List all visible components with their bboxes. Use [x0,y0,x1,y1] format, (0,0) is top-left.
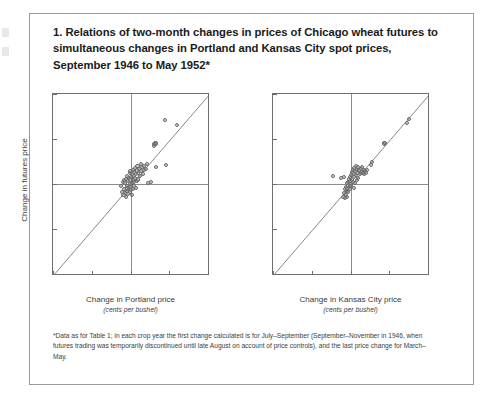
scatter-point [136,177,140,181]
y-axis-tick-mark [273,274,277,275]
x-axis-tick-mark [312,271,313,275]
scatter-point [144,167,148,171]
x-axis-tick-mark [428,271,429,275]
margin-artifact-top [2,28,9,37]
figure-footnote: *Data as for Table 1; in each crop year … [53,331,438,362]
scatter-point [352,186,356,190]
x-axis-tick-mark [389,271,390,275]
y-axis-tick-mark [53,139,57,140]
scatter-point [365,168,369,172]
scatter-point [175,123,179,127]
x-axis-tick-mark [351,271,352,275]
x-axis-tick-mark [273,271,274,275]
x-axis-units-kansascity: (cents per bushel) [272,306,429,313]
x-axis-tick-mark [131,271,132,275]
y-axis-tick-mark [53,94,57,95]
y-axis-tick-mark [53,184,57,185]
scatter-point [405,121,409,125]
y-axis-tick-mark [273,94,277,95]
margin-artifact-bottom [2,47,9,56]
y-axis-tick-mark [273,184,277,185]
y-axis-tick-mark [273,139,277,140]
scatter-point [149,180,153,184]
scatter-point [154,165,158,169]
x-axis-title-portland: Change in Portland price [52,295,209,304]
scatter-point [134,186,138,190]
x-axis-tick-mark [169,271,170,275]
figure-title: 1. Relations of two-month changes in pri… [53,24,443,73]
y-axis-tick-mark [273,229,277,230]
x-axis-tick-mark [208,271,209,275]
x-axis-units-portland: (cents per bushel) [52,306,209,313]
plot-area-kansascity: –100–500+50+100–100–500+50+100 [272,93,429,275]
y-axis-tick-mark [53,274,57,275]
y-axis-tick-mark [53,229,57,230]
scatter-point [383,141,387,145]
plot-area-portland: –100–500+50+100–100–500+50+100 [52,93,209,275]
x-axis-title-kansascity: Change in Kansas City price [272,295,429,304]
x-axis-tick-mark [92,271,93,275]
scatter-point [154,141,158,145]
x-axis-tick-mark [53,271,54,275]
scatter-point [163,118,167,122]
scatter-point [130,193,134,197]
